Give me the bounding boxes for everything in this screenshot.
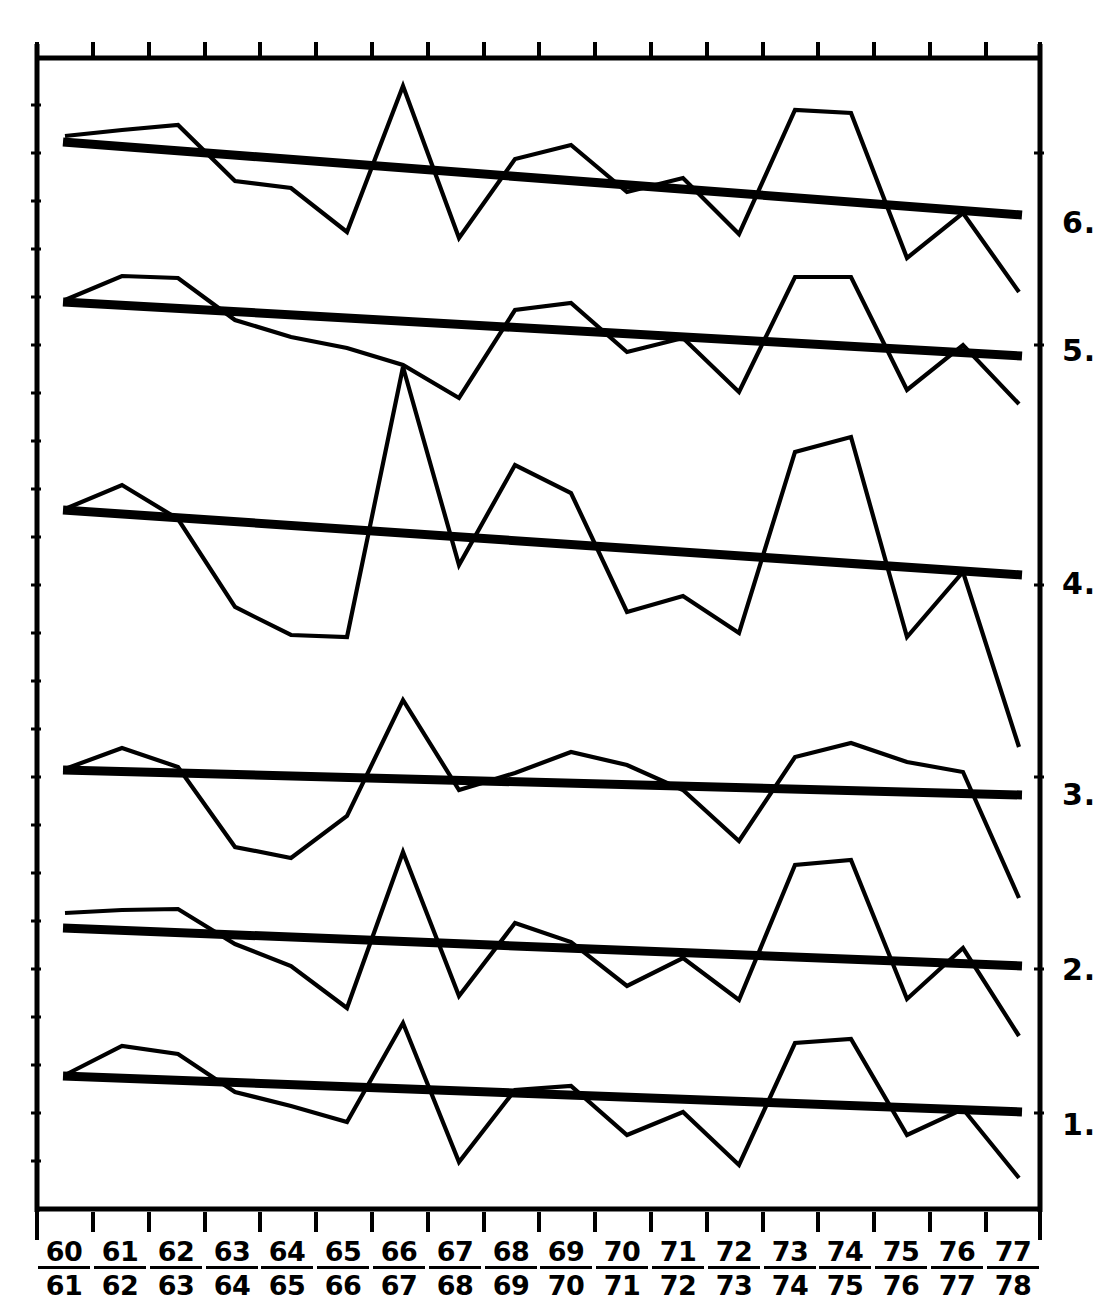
x-tick-numerator: 70 — [596, 1238, 648, 1269]
x-tick-denominator: 69 — [485, 1269, 537, 1299]
x-tick-numerator: 64 — [261, 1238, 313, 1269]
x-tick-numerator: 77 — [987, 1238, 1039, 1269]
series-panel-4 — [63, 367, 1022, 747]
series-label-6: 6. — [1062, 205, 1096, 240]
x-tick-numerator: 69 — [540, 1238, 592, 1269]
x-tick-denominator: 64 — [206, 1269, 258, 1299]
x-tick-label: 74 75 — [819, 1238, 871, 1299]
x-tick-label: 75 76 — [875, 1238, 927, 1299]
x-tick-denominator: 63 — [150, 1269, 202, 1299]
x-tick-denominator: 74 — [764, 1269, 816, 1299]
series-panel-6 — [63, 86, 1022, 292]
x-tick-numerator: 63 — [206, 1238, 258, 1269]
series-4-data-line — [65, 367, 1019, 747]
x-tick-denominator: 77 — [931, 1269, 983, 1299]
series-label-4: 4. — [1062, 566, 1096, 601]
x-tick-denominator: 70 — [540, 1269, 592, 1299]
series-panel-3 — [63, 700, 1022, 898]
series-label-1: 1. — [1062, 1107, 1096, 1142]
x-tick-numerator: 66 — [373, 1238, 425, 1269]
x-tick-denominator: 73 — [708, 1269, 760, 1299]
x-tick-label: 64 65 — [261, 1238, 313, 1299]
x-tick-denominator: 65 — [261, 1269, 313, 1299]
x-tick-denominator: 76 — [875, 1269, 927, 1299]
series-panel-5 — [63, 276, 1022, 404]
series-panel-2 — [63, 852, 1022, 1036]
x-tick-label: 65 66 — [317, 1238, 369, 1299]
x-tick-numerator: 75 — [875, 1238, 927, 1269]
x-tick-denominator: 78 — [987, 1269, 1039, 1299]
x-tick-label: 71 72 — [652, 1238, 704, 1299]
x-tick-denominator: 67 — [373, 1269, 425, 1299]
series-3-trend-line — [63, 770, 1022, 795]
x-tick-numerator: 72 — [708, 1238, 760, 1269]
x-tick-label: 60 61 — [38, 1238, 90, 1299]
x-tick-denominator: 71 — [596, 1269, 648, 1299]
x-tick-numerator: 71 — [652, 1238, 704, 1269]
series-5-data-line — [65, 276, 1019, 404]
x-tick-denominator: 75 — [819, 1269, 871, 1299]
x-tick-label: 76 77 — [931, 1238, 983, 1299]
x-tick-label: 73 74 — [764, 1238, 816, 1299]
x-tick-numerator: 73 — [764, 1238, 816, 1269]
series-3-data-line — [65, 700, 1019, 898]
x-tick-label: 69 70 — [540, 1238, 592, 1299]
x-tick-numerator: 74 — [819, 1238, 871, 1269]
x-tick-numerator: 67 — [429, 1238, 481, 1269]
x-tick-label: 61 62 — [94, 1238, 146, 1299]
x-tick-label: 62 63 — [150, 1238, 202, 1299]
chart-figure: 60 61 61 62 62 63 63 64 64 65 65 66 66 6… — [0, 0, 1117, 1306]
series-6-data-line — [65, 86, 1019, 292]
x-tick-label: 68 69 — [485, 1238, 537, 1299]
x-tick-numerator: 68 — [485, 1238, 537, 1269]
x-tick-numerator: 61 — [94, 1238, 146, 1269]
series-label-5: 5. — [1062, 333, 1096, 368]
x-tick-denominator: 66 — [317, 1269, 369, 1299]
series-label-2: 2. — [1062, 952, 1096, 987]
x-tick-numerator: 65 — [317, 1238, 369, 1269]
chart-plot-area — [0, 0, 1117, 1306]
x-tick-label: 70 71 — [596, 1238, 648, 1299]
x-tick-label: 77 78 — [987, 1238, 1039, 1299]
x-tick-label: 72 73 — [708, 1238, 760, 1299]
x-tick-denominator: 72 — [652, 1269, 704, 1299]
x-tick-denominator: 62 — [94, 1269, 146, 1299]
x-tick-numerator: 76 — [931, 1238, 983, 1269]
x-tick-label: 67 68 — [429, 1238, 481, 1299]
x-tick-numerator: 60 — [38, 1238, 90, 1269]
x-tick-denominator: 61 — [38, 1269, 90, 1299]
x-tick-numerator: 62 — [150, 1238, 202, 1269]
series-panel-1 — [63, 1023, 1022, 1178]
series-1-data-line — [65, 1023, 1019, 1178]
x-tick-label: 63 64 — [206, 1238, 258, 1299]
x-tick-denominator: 68 — [429, 1269, 481, 1299]
series-label-3: 3. — [1062, 777, 1096, 812]
x-tick-label: 66 67 — [373, 1238, 425, 1299]
